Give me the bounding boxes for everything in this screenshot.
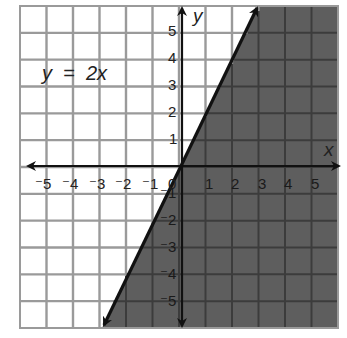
x-tick-label: ⁻4 <box>62 175 78 192</box>
y-tick-label: 1 <box>169 130 177 147</box>
y-tick-label: 4 <box>168 49 176 66</box>
x-axis-label: x <box>323 139 335 160</box>
x-tick-label: 2 <box>231 175 239 192</box>
y-tick-label: 2 <box>168 103 176 120</box>
y-tick-label: 5 <box>168 22 176 39</box>
x-tick-label: ⁻1 <box>142 175 158 192</box>
x-tick-label: ⁻3 <box>89 175 105 192</box>
equation-label: y = 2x <box>40 62 108 84</box>
coordinate-plane: y x y = 2x ⁻5 ⁻4 ⁻3 ⁻2 ⁻1 0 1 2 3 4 5 5 … <box>0 0 347 338</box>
y-tick-label: ⁻2 <box>160 211 176 228</box>
x-tick-label: ⁻2 <box>115 175 131 192</box>
y-tick-label: 3 <box>168 76 176 93</box>
x-tick-label: 5 <box>311 175 319 192</box>
y-tick-label: ⁻3 <box>160 238 176 255</box>
x-tick-label: 1 <box>205 175 213 192</box>
y-tick-label: ⁻4 <box>160 265 176 282</box>
y-tick-label: ⁻5 <box>160 292 176 309</box>
x-tick-label: 4 <box>284 175 292 192</box>
y-axis-label: y <box>191 5 204 26</box>
x-tick-label: ⁻5 <box>35 175 51 192</box>
y-tick-label: ⁻1 <box>160 184 176 201</box>
x-tick-label: 3 <box>258 175 266 192</box>
